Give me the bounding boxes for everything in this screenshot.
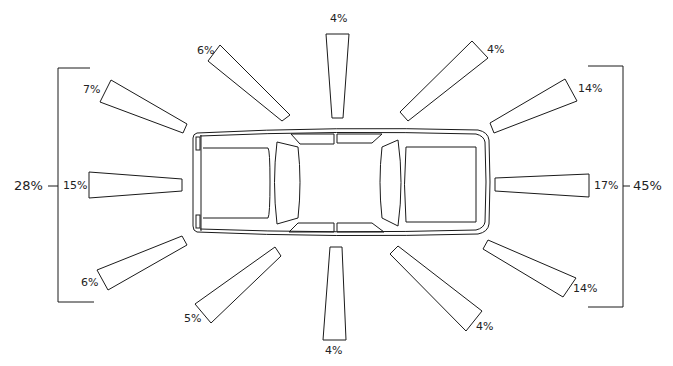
- wedge-right-upper: [490, 79, 577, 133]
- wedge-bottom-right: [390, 246, 482, 331]
- label-right-upper: 14%: [578, 83, 602, 94]
- label-right-group-total: 45%: [633, 179, 662, 192]
- wedge-right-lower: [483, 240, 576, 297]
- label-top-right: 4%: [487, 44, 504, 55]
- label-left-middle: 15%: [63, 180, 87, 191]
- wedge-left-middle: [89, 172, 182, 198]
- label-right-middle: 17%: [594, 180, 618, 191]
- label-left-group-total: 28%: [14, 179, 43, 192]
- car-outline: [193, 129, 490, 236]
- wedge-left-lower: [97, 236, 187, 290]
- label-top-left: 6%: [197, 45, 214, 56]
- wedge-bottom-center: [323, 247, 346, 340]
- wedge-right-middle: [495, 174, 589, 197]
- wedge-top-right: [400, 41, 488, 121]
- wedges: [89, 34, 589, 340]
- wedge-left-upper: [100, 80, 187, 133]
- label-left-lower: 6%: [81, 277, 98, 288]
- label-top-center: 4%: [330, 13, 347, 24]
- label-left-upper: 7%: [83, 84, 100, 95]
- wedge-top-center: [326, 34, 349, 118]
- wedge-top-left: [208, 45, 290, 121]
- label-bottom-left: 5%: [184, 313, 201, 324]
- label-right-lower: 14%: [573, 283, 597, 294]
- car-impact-diagram: [0, 0, 673, 366]
- label-bottom-center: 4%: [325, 345, 342, 356]
- wedge-bottom-left: [195, 247, 281, 323]
- label-bottom-right: 4%: [476, 321, 493, 332]
